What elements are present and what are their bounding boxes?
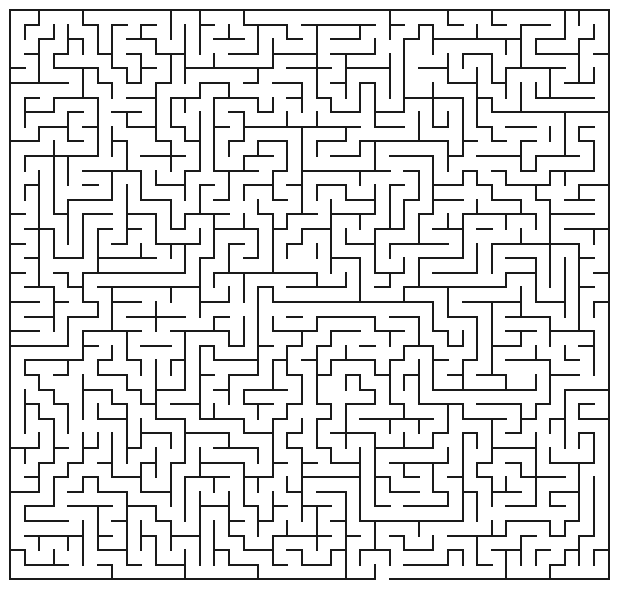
- maze-page: [0, 0, 618, 594]
- maze-grid-svg: [0, 0, 618, 594]
- maze-background: [0, 0, 618, 594]
- maze-canvas: [0, 0, 618, 594]
